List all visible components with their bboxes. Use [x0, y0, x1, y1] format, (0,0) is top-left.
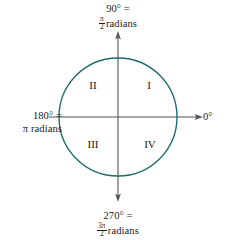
fraction-denominator: 2 — [99, 23, 105, 31]
angle-label-90-degrees: 90° = — [68, 3, 168, 16]
fraction-denominator: 2 — [97, 230, 106, 238]
fraction-numerator: 3π — [97, 223, 106, 230]
fraction-numerator: π — [99, 16, 105, 23]
quadrant-label-i: I — [140, 79, 158, 91]
angle-label-180-radians: π radians — [2, 123, 62, 136]
fraction-3pi-over-2: 3π 2 — [97, 223, 106, 239]
quadrant-label-iii: III — [81, 138, 105, 150]
quadrant-label-ii: II — [84, 79, 102, 91]
angle-label-180-degrees: 180° = — [2, 110, 62, 123]
angle-label-90: 90° = π 2 radians — [68, 3, 168, 31]
angle-label-270: 270° = 3π 2 radians — [68, 210, 168, 238]
angle-label-180: 180° = π radians — [2, 110, 62, 135]
angle-label-270-radians: 3π 2 radians — [68, 223, 168, 239]
angle-label-270-degrees: 270° = — [68, 210, 168, 223]
angle-label-0-degrees: 0° — [203, 111, 229, 124]
quadrant-label-iv: IV — [138, 138, 162, 150]
angle-label-90-radians: π 2 radians — [68, 16, 168, 32]
fraction-pi-over-2: π 2 — [99, 16, 105, 32]
radians-word: radians — [106, 18, 137, 29]
radians-word: radians — [108, 225, 139, 236]
angle-label-0: 0° — [203, 111, 229, 124]
